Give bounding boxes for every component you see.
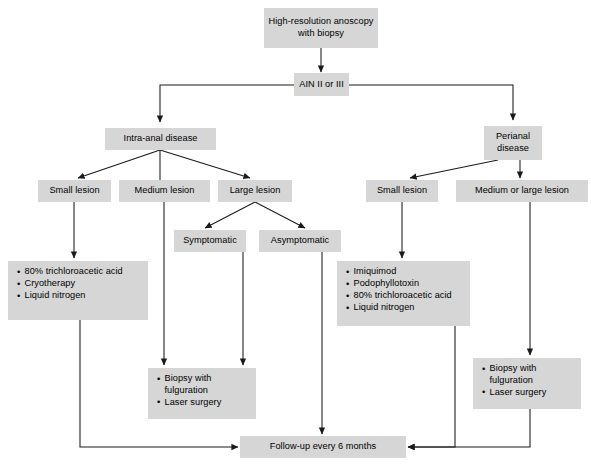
treatment-list: Biopsy with fulgurationLaser surgery <box>157 373 248 408</box>
node-follow-up[interactable]: Follow-up every 6 months <box>240 436 406 458</box>
treatment-item: Laser surgery <box>157 397 248 409</box>
edge-intraanal-to-large <box>160 150 250 178</box>
edge-large-to-symptomatic <box>205 202 255 228</box>
edge-ain-to-intraanal <box>160 85 294 122</box>
flowchart-canvas: High-resolution anoscopy with biopsy AIN… <box>0 0 591 471</box>
treatment-item: Biopsy with fulguration <box>482 363 573 386</box>
edge-perianal-to-small <box>410 160 498 178</box>
treatment-item: 80% trichloroacetic acid <box>346 290 462 302</box>
node-asymptomatic[interactable]: Asymptomatic <box>259 230 341 252</box>
node-intra-small-lesion-treatments[interactable]: 80% trichloroacetic acidCryotherapyLiqui… <box>8 261 148 320</box>
node-label: AIN II or III <box>299 79 344 91</box>
treatment-item: Liquid nitrogen <box>346 302 462 314</box>
edge-intraanal-to-small <box>78 150 160 178</box>
node-peri-surgery-treatments[interactable]: Biopsy with fulgurationLaser surgery <box>473 358 581 409</box>
treatment-item: Biopsy with fulguration <box>157 373 248 396</box>
node-label: Asymptomatic <box>271 235 329 247</box>
node-peri-small-lesion-treatments[interactable]: ImiquimodPodophyllotoxin80% trichloroace… <box>337 261 470 326</box>
node-symptomatic[interactable]: Symptomatic <box>174 230 246 252</box>
node-intra-anal-disease[interactable]: Intra-anal disease <box>105 128 216 150</box>
treatment-item: Laser surgery <box>482 387 573 399</box>
edge-peritx-to-followup <box>408 325 455 447</box>
treatment-list: ImiquimodPodophyllotoxin80% trichloroace… <box>346 266 462 314</box>
edge-ain-to-perianal <box>349 85 513 120</box>
node-label: High-resolution anoscopy with biopsy <box>269 16 374 39</box>
node-label: Large lesion <box>230 185 281 197</box>
treatment-item: Cryotherapy <box>17 278 140 290</box>
node-ain-ii-or-iii[interactable]: AIN II or III <box>294 73 349 96</box>
node-intra-surgery-treatments[interactable]: Biopsy with fulgurationLaser surgery <box>148 368 256 419</box>
node-label: Small lesion <box>377 185 427 197</box>
node-label: Follow-up every 6 months <box>270 441 376 453</box>
node-label: Symptomatic <box>183 235 237 247</box>
treatment-list: 80% trichloroacetic acidCryotherapyLiqui… <box>17 266 140 302</box>
node-peri-small-lesion[interactable]: Small lesion <box>366 180 438 202</box>
treatment-list: Biopsy with fulgurationLaser surgery <box>482 363 573 398</box>
node-label: Medium or large lesion <box>475 185 569 197</box>
node-label: Medium lesion <box>135 185 195 197</box>
node-intra-medium-lesion[interactable]: Medium lesion <box>119 180 210 202</box>
node-peri-medium-or-large-lesion[interactable]: Medium or large lesion <box>456 180 588 202</box>
node-label: Perianal disease <box>496 131 530 154</box>
edge-large-to-asymptomatic <box>255 202 305 228</box>
edge-perisurgery-to-followup <box>408 409 530 447</box>
node-intra-large-lesion[interactable]: Large lesion <box>218 180 292 202</box>
node-perianal-disease[interactable]: Perianal disease <box>484 126 542 160</box>
node-label: Intra-anal disease <box>124 133 198 145</box>
treatment-item: 80% trichloroacetic acid <box>17 266 140 278</box>
node-intra-small-lesion[interactable]: Small lesion <box>38 180 111 202</box>
treatment-item: Podophyllotoxin <box>346 278 462 290</box>
node-high-resolution-anoscopy[interactable]: High-resolution anoscopy with biopsy <box>264 8 378 48</box>
node-label: Small lesion <box>49 185 99 197</box>
treatment-item: Liquid nitrogen <box>17 290 140 302</box>
treatment-item: Imiquimod <box>346 266 462 278</box>
